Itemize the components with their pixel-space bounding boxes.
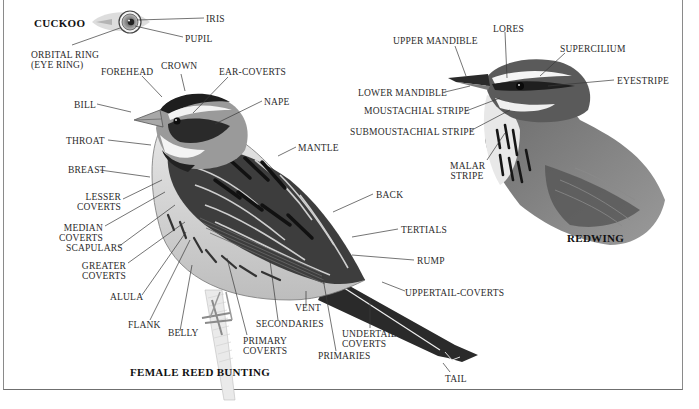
label-lesser-coverts: LESSER COVERTS [75, 192, 121, 212]
label-scapulars: SCAPULARS [66, 243, 123, 253]
label-secondaries: SECONDARIES [256, 319, 324, 329]
cuckoo-title: CUCKOO [34, 17, 85, 29]
cuckoo-eye-illustration [92, 11, 150, 33]
label-belly: BELLY [168, 328, 199, 338]
label-primaries: PRIMARIES [318, 351, 370, 361]
label-moustachial-stripe: MOUSTACHIAL STRIPE [364, 106, 470, 116]
label-ear-coverts: EAR-COVERTS [219, 67, 286, 77]
label-iris: IRIS [206, 14, 225, 24]
label-submoustachial-stripe: SUBMOUSTACHIAL STRIPE [350, 127, 475, 137]
label-vent: VENT [295, 303, 321, 313]
label-median-coverts: MEDIAN COVERTS [55, 223, 103, 243]
label-supercilium: SUPERCILIUM [560, 44, 626, 54]
bird-topography-diagram: CUCKOO FEMALE REED BUNTING REDWING IRIS … [0, 0, 699, 409]
label-nape: NAPE [264, 97, 290, 107]
label-tail: TAIL [445, 374, 467, 384]
label-alula: ALULA [110, 292, 143, 302]
label-crown: CROWN [161, 61, 197, 71]
label-upper-mandible: UPPER MANDIBLE [393, 36, 478, 46]
label-tertials: TERTIALS [401, 225, 447, 235]
label-primary-coverts: PRIMARY COVERTS [243, 336, 287, 356]
label-uppertail-coverts: UPPERTAIL-COVERTS [405, 288, 504, 298]
redwing-title: REDWING [567, 232, 624, 244]
label-mantle: MANTLE [298, 143, 339, 153]
label-breast: BREAST [68, 165, 106, 175]
label-forehead: FOREHEAD [101, 67, 153, 77]
label-rump: RUMP [417, 256, 445, 266]
label-bill: BILL [74, 100, 96, 110]
label-lower-mandible: LOWER MANDIBLE [358, 88, 447, 98]
label-lores: LORES [493, 24, 524, 34]
redwing-illustration [448, 59, 665, 245]
label-orbital-ring: ORBITAL RING (EYE RING) [31, 50, 99, 70]
female-reed-bunting-title: FEMALE REED BUNTING [130, 366, 270, 378]
label-pupil: PUPIL [185, 34, 212, 44]
label-malar-stripe: MALAR STRIPE [450, 161, 484, 181]
label-greater-coverts: GREATER COVERTS [78, 261, 126, 281]
label-flank: FLANK [128, 320, 161, 330]
label-back: BACK [376, 190, 403, 200]
label-throat: THROAT [66, 136, 105, 146]
label-eyestripe: EYESTRIPE [617, 76, 669, 86]
reed-bunting-illustration [134, 94, 478, 400]
label-undertail-coverts: UNDERTAIL- COVERTS [342, 329, 400, 349]
